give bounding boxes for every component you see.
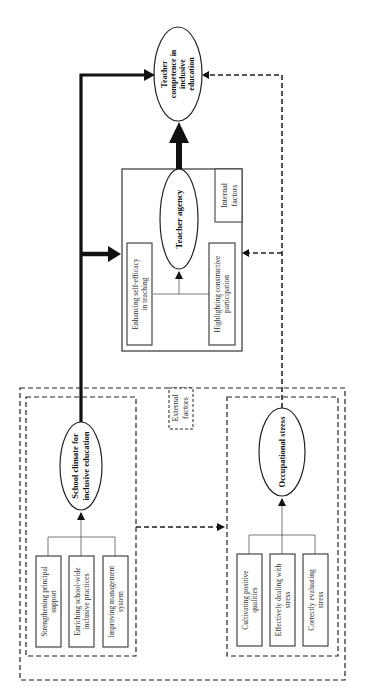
svg-text:stress: stress	[316, 592, 325, 609]
svg-text:Teacher agency: Teacher agency	[174, 189, 184, 249]
internal-factors-label: Internal factors	[220, 182, 239, 208]
svg-text:inclusive: inclusive	[178, 59, 187, 89]
svg-text:support: support	[49, 589, 58, 612]
framework-diagram: External factors School climate for incl…	[0, 0, 367, 696]
svg-text:in teaching: in teaching	[140, 277, 149, 310]
teacher-agency-label: Teacher agency	[174, 189, 184, 249]
svg-text:system: system	[116, 591, 125, 612]
svg-text:factors: factors	[181, 397, 190, 419]
svg-text:competence in: competence in	[169, 49, 178, 98]
svg-text:inclusive education: inclusive education	[81, 431, 91, 500]
occupational-stress-label: Occupational stress	[277, 416, 287, 488]
svg-text:Effectively dealing with: Effectively dealing with	[274, 564, 283, 637]
svg-text:Enriching school-wide: Enriching school-wide	[73, 567, 82, 636]
svg-text:Strengthening principal: Strengthening principal	[40, 566, 49, 637]
svg-text:qualities: qualities	[250, 587, 259, 612]
svg-text:inclusive practices: inclusive practices	[82, 574, 91, 630]
svg-text:education: education	[187, 57, 196, 91]
svg-text:Internal: Internal	[220, 182, 229, 208]
svg-text:Occupational stress: Occupational stress	[277, 416, 287, 488]
school-climate-label: School climate for inclusive education	[70, 431, 91, 500]
svg-text:stress: stress	[283, 592, 292, 609]
svg-text:External: External	[171, 394, 180, 422]
external-factors-label: External factors	[171, 394, 190, 422]
svg-text:Cultivating positive: Cultivating positive	[241, 570, 250, 630]
svg-text:Teacher: Teacher	[160, 60, 169, 88]
svg-text:Correctly evaluating: Correctly evaluating	[307, 569, 316, 631]
svg-text:Highlighting constructive: Highlighting constructive	[213, 255, 222, 333]
svg-text:factors: factors	[230, 185, 239, 207]
svg-text:participation: participation	[222, 275, 231, 313]
svg-text:Improving management: Improving management	[107, 565, 116, 638]
svg-text:Enhancing self-efficacy: Enhancing self-efficacy	[131, 258, 140, 330]
svg-text:School climate for: School climate for	[70, 433, 80, 499]
